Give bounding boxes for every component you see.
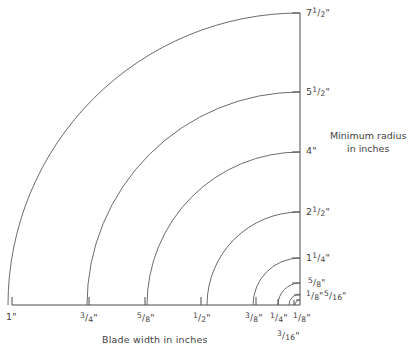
x-axis-caption: Blade width in inches bbox=[102, 334, 208, 345]
x-label-5-8-unit: " bbox=[150, 312, 155, 323]
y-label-5-8: 5/8" bbox=[308, 277, 325, 289]
y-label-4-unit: " bbox=[312, 145, 317, 156]
arc-blade-3-4in bbox=[87, 92, 300, 305]
y-axis-caption: Minimum radius in inches bbox=[330, 130, 406, 156]
y-label-1-8: 1/8" bbox=[306, 290, 323, 302]
y-label-5-16-den: 16 bbox=[332, 293, 342, 302]
x-label-1-unit: " bbox=[12, 311, 17, 322]
y-label-5-16: 5/16" bbox=[324, 290, 347, 302]
x-label-1-4: 1/4" bbox=[270, 312, 288, 324]
y-label-5-1-2: 51/2" bbox=[306, 86, 330, 98]
x-label-3-8: 3/8" bbox=[245, 312, 263, 324]
y-label-1-8-unit: " bbox=[319, 291, 323, 301]
x-label-3-4: 3/4" bbox=[80, 312, 98, 324]
x-label-3-16-unit: " bbox=[295, 330, 300, 341]
x-label-1: 1" bbox=[6, 312, 17, 322]
y-label-1-1-4: 11/4" bbox=[306, 252, 330, 264]
x-label-1-8-unit: " bbox=[306, 312, 311, 323]
arc-blade-1-8in bbox=[295, 300, 300, 305]
y-label-5-16-unit: " bbox=[342, 291, 346, 301]
y-label-4: 4" bbox=[306, 146, 317, 156]
y-label-5-1-2-unit: " bbox=[326, 86, 331, 97]
x-label-5-8: 5/8" bbox=[137, 312, 155, 324]
blade-radius-chart: 71/2" 51/2" 4" 21/2" 11/4" 5/8" 1/8" 5/1… bbox=[0, 0, 415, 360]
y-axis-caption-line1: Minimum radius bbox=[330, 130, 406, 143]
y-label-2-1-2-unit: " bbox=[326, 206, 331, 217]
x-label-1-4-unit: " bbox=[283, 312, 288, 323]
y-label-7-1-2: 71/2" bbox=[306, 7, 330, 19]
x-label-3-16: 3/16" bbox=[277, 330, 300, 342]
x-label-3-4-unit: " bbox=[93, 312, 98, 323]
x-label-1-2-unit: " bbox=[206, 312, 211, 323]
y-axis-caption-line2: in inches bbox=[330, 143, 406, 156]
x-label-1-8: 1/8" bbox=[293, 312, 311, 324]
chart-drawing bbox=[0, 0, 415, 360]
y-label-2-1-2: 21/2" bbox=[306, 206, 330, 218]
y-label-1-1-4-unit: " bbox=[326, 252, 331, 263]
x-label-3-16-den: 16 bbox=[285, 333, 295, 342]
y-label-7-1-2-unit: " bbox=[326, 7, 331, 18]
x-label-1-2: 1/2" bbox=[193, 312, 211, 324]
y-label-5-8-unit: " bbox=[321, 278, 325, 288]
x-label-3-8-unit: " bbox=[258, 312, 263, 323]
arc-blade-1-2in bbox=[207, 212, 300, 305]
arc-blade-1in bbox=[8, 13, 300, 305]
arc-blade-3-8in bbox=[253, 258, 300, 305]
arc-blade-5-8in bbox=[147, 152, 300, 305]
